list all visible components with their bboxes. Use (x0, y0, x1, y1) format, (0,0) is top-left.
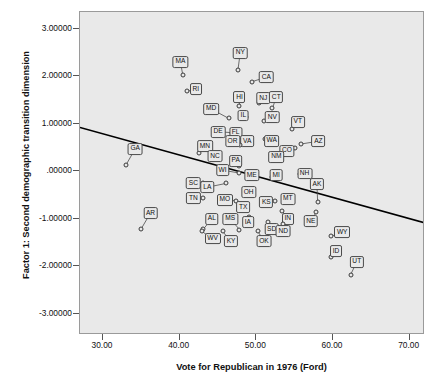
data-point-label: RI (190, 83, 202, 95)
data-point[interactable] (298, 142, 303, 147)
data-point-label: SC (186, 177, 201, 189)
data-point-label: NV (265, 112, 280, 124)
x-tick-mark (179, 334, 180, 340)
y-tick-label: 3.00000 (14, 23, 72, 33)
data-point-label: CT (269, 91, 283, 103)
data-point-label: NH (297, 168, 312, 180)
data-point-label: GA (128, 143, 143, 155)
data-point[interactable] (220, 229, 225, 234)
x-tick-label: 40.00 (149, 340, 209, 350)
data-point-label: AK (310, 178, 324, 190)
data-point[interactable] (235, 67, 240, 72)
data-point[interactable] (348, 272, 353, 277)
x-tick-mark (255, 334, 256, 340)
data-point-label: NY (233, 47, 248, 59)
data-point-label: AR (143, 207, 158, 219)
x-tick-mark (332, 334, 333, 340)
data-point-label: WA (264, 135, 280, 147)
y-tick-label: .00000 (14, 165, 72, 175)
y-tick-label: 1.00000 (14, 118, 72, 128)
data-point-label: WV (205, 233, 221, 245)
data-point-label: IL (238, 110, 249, 122)
data-point-label: IA (242, 216, 254, 228)
data-point-label: MA (173, 56, 188, 68)
data-point[interactable] (237, 227, 242, 232)
data-point-label: AL (205, 213, 218, 225)
data-point-label: ND (276, 226, 291, 238)
data-point[interactable] (223, 181, 228, 186)
data-point[interactable] (199, 229, 204, 234)
x-tick-label: 30.00 (72, 340, 132, 350)
data-point-label: NJ (257, 92, 270, 104)
data-point-label: ME (244, 169, 259, 181)
y-axis-tick-labels: 3.000002.000001.00000.00000-1.00000-2.00… (10, 0, 72, 384)
data-point-label: WI (216, 164, 229, 176)
data-point[interactable] (255, 229, 260, 234)
x-tick-label: 70.00 (379, 340, 433, 350)
data-point-label: VT (291, 116, 305, 128)
scatter-plot-figure: Factor 1: Second demographic transition … (0, 0, 433, 384)
data-point-label: LA (201, 181, 214, 193)
data-point[interactable] (237, 171, 242, 176)
data-point-label: NC (207, 150, 222, 162)
data-point-label: TN (186, 192, 200, 204)
x-tick-label: 50.00 (225, 340, 285, 350)
x-tick-mark (102, 334, 103, 340)
data-point[interactable] (124, 162, 129, 167)
data-point[interactable] (237, 103, 242, 108)
data-point[interactable] (249, 79, 254, 84)
data-point-label: AZ (312, 135, 326, 147)
data-point-label: DE (211, 126, 226, 138)
y-tick-label: -2.00000 (14, 260, 72, 270)
data-point-label: MS (223, 213, 238, 225)
data-point[interactable] (180, 72, 185, 77)
data-point-label: MD (203, 103, 219, 115)
data-point-label: OK (257, 235, 272, 247)
data-point-label: KS (259, 196, 273, 208)
plot-area: MANYCARIHINJCTMDILNVVTDEFLWAVAORAZMNCONC… (79, 11, 424, 334)
data-point-label: CA (259, 71, 274, 83)
x-axis-title: Vote for Republican in 1976 (Ford) (79, 362, 424, 372)
data-point[interactable] (270, 106, 275, 111)
y-tick-label: -3.00000 (14, 308, 72, 318)
data-point-label: OH (241, 186, 256, 198)
data-point[interactable] (200, 196, 205, 201)
data-point-label: TX (236, 201, 250, 213)
data-point-label: UT (350, 256, 364, 268)
data-point-label: NE (303, 215, 318, 227)
data-point-label: MO (217, 194, 233, 206)
data-point-label: PA (229, 155, 243, 167)
data-point-label: WY (334, 226, 350, 238)
data-point-label: ID (330, 245, 342, 257)
x-tick-mark (409, 334, 410, 340)
data-point-label: MT (280, 193, 295, 205)
data-point[interactable] (139, 226, 144, 231)
data-point-label: KY (224, 235, 238, 247)
data-point-label: OR (225, 135, 240, 147)
data-point-label: NM (268, 151, 284, 163)
data-point[interactable] (226, 116, 231, 121)
data-point[interactable] (315, 200, 320, 205)
x-tick-label: 60.00 (302, 340, 362, 350)
y-tick-label: -1.00000 (14, 213, 72, 223)
y-tick-label: 2.00000 (14, 70, 72, 80)
data-point-label: MI (270, 169, 283, 181)
data-point-label: HI (233, 91, 245, 103)
